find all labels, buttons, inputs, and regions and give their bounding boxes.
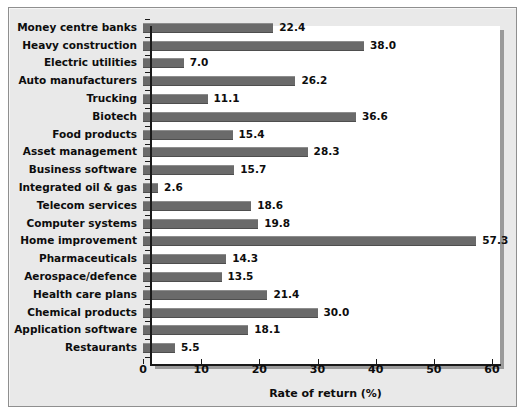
bar xyxy=(143,130,233,140)
bar-value-label: 13.5 xyxy=(228,271,254,282)
bar-value-label: 15.4 xyxy=(239,129,265,140)
chart-panel: 22.438.07.026.211.136.615.428.315.72.618… xyxy=(8,7,517,407)
bar xyxy=(143,290,267,300)
bar-value-label: 57.3 xyxy=(482,235,508,246)
category-label: Aerospace/defence xyxy=(9,271,137,282)
plot-shadow-right xyxy=(500,30,504,369)
category-label: Restaurants xyxy=(9,342,137,353)
bar-value-label: 19.8 xyxy=(264,218,290,229)
bar-value-label: 28.3 xyxy=(314,146,340,157)
bar xyxy=(143,201,251,211)
x-axis-tick-label: 50 xyxy=(414,364,454,376)
bar-value-label: 18.6 xyxy=(257,200,283,211)
category-label: Trucking xyxy=(9,93,137,104)
y-axis-line xyxy=(150,26,152,366)
x-axis-tick-label: 10 xyxy=(181,364,221,376)
bar xyxy=(143,325,248,335)
x-axis-tick-label: 30 xyxy=(298,364,338,376)
category-label: Application software xyxy=(9,324,137,335)
bar-value-label: 11.1 xyxy=(214,93,240,104)
chart-figure: 22.438.07.026.211.136.615.428.315.72.618… xyxy=(0,0,526,416)
bar xyxy=(143,219,258,229)
x-axis-tick-label: 0 xyxy=(123,364,163,376)
category-label: Biotech xyxy=(9,111,137,122)
category-label: Food products xyxy=(9,129,137,140)
bar-value-label: 15.7 xyxy=(240,164,266,175)
bar xyxy=(143,308,318,318)
bar xyxy=(143,41,364,51)
category-label: Asset management xyxy=(9,146,137,157)
x-axis-tick-label: 20 xyxy=(239,364,279,376)
bar-value-label: 38.0 xyxy=(370,40,396,51)
bar-value-label: 7.0 xyxy=(190,57,209,68)
x-axis-tick-label: 60 xyxy=(472,364,512,376)
category-label: Computer systems xyxy=(9,218,137,229)
category-label: Integrated oil & gas xyxy=(9,182,137,193)
bar xyxy=(143,165,234,175)
bar xyxy=(143,236,476,246)
bar xyxy=(143,272,222,282)
bar xyxy=(143,112,356,122)
bar-value-label: 2.6 xyxy=(164,182,183,193)
bar-value-label: 18.1 xyxy=(254,324,280,335)
bar-value-label: 36.6 xyxy=(362,111,388,122)
bar xyxy=(143,343,175,353)
bar-value-label: 21.4 xyxy=(273,289,299,300)
category-label: Home improvement xyxy=(9,235,137,246)
bar xyxy=(143,94,208,104)
bar-value-label: 26.2 xyxy=(301,75,327,86)
category-label: Health care plans xyxy=(9,289,137,300)
bar-value-label: 22.4 xyxy=(279,22,305,33)
bar xyxy=(143,147,308,157)
category-label: Telecom services xyxy=(9,200,137,211)
category-label: Heavy construction xyxy=(9,40,137,51)
category-label: Money centre banks xyxy=(9,22,137,33)
category-label: Chemical products xyxy=(9,307,137,318)
x-axis-title: Rate of return (%) xyxy=(151,387,500,400)
category-label: Auto manufacturers xyxy=(9,75,137,86)
category-label: Electric utilities xyxy=(9,57,137,68)
bar-value-label: 30.0 xyxy=(324,307,350,318)
bar xyxy=(143,76,295,86)
x-axis-tick-label: 40 xyxy=(356,364,396,376)
category-label: Pharmaceuticals xyxy=(9,253,137,264)
category-label: Business software xyxy=(9,164,137,175)
y-axis-tick xyxy=(145,19,150,20)
bar-value-label: 5.5 xyxy=(181,342,200,353)
bar xyxy=(143,254,226,264)
bar xyxy=(143,23,273,33)
bar-value-label: 14.3 xyxy=(232,253,258,264)
